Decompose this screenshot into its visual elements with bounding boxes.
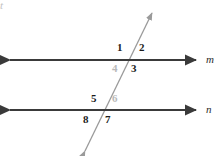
- angle-label-7: 7: [105, 114, 111, 125]
- angle-label-6: 6: [112, 93, 118, 104]
- angle-label-8: 8: [83, 114, 89, 125]
- transversal-line-t: [85, 13, 152, 151]
- line-label-m: m: [206, 54, 214, 65]
- angle-label-1: 1: [117, 42, 123, 53]
- geometry-canvas: [0, 0, 221, 156]
- geometry-diagram: 1 2 3 4 5 6 7 8 m n t: [0, 0, 221, 156]
- line-label-n: n: [206, 104, 212, 115]
- angle-label-3: 3: [131, 63, 137, 74]
- angle-label-4: 4: [112, 63, 118, 74]
- angle-label-2: 2: [139, 42, 145, 53]
- angle-label-5: 5: [91, 93, 97, 104]
- line-label-t: t: [0, 0, 3, 11]
